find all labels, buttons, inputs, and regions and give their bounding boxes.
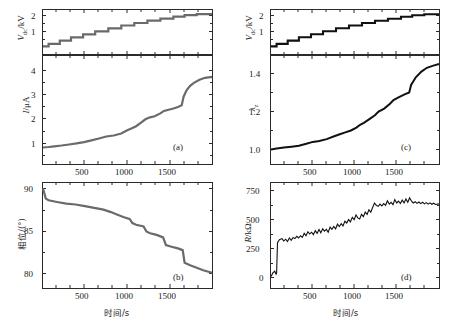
panel-d-xlabel: 时间/s: [333, 306, 358, 318]
panel-d-xtick-1000: 1000: [343, 291, 361, 301]
panel-d-xtick-500: 500: [303, 291, 317, 301]
panel-d-curve: [271, 198, 439, 277]
panel-b-xtick-1000: 1000: [115, 291, 133, 301]
figure-root: Vdc/kV 2 1: [0, 0, 452, 327]
panel-d-plot: [226, 0, 440, 300]
panel-b-xtick-1500: 1500: [158, 291, 176, 301]
panel-d-xtick-1500: 1500: [385, 291, 403, 301]
panel-b-plot: [0, 0, 213, 300]
panel-b-curve: [43, 189, 212, 273]
panel-b-xtick-500: 500: [75, 291, 89, 301]
left-column: Vdc/kV 2 1: [0, 0, 226, 327]
panel-b-xlabel: 时间/s: [104, 306, 129, 318]
right-column: Vdc/kV 2 1: [226, 0, 452, 327]
